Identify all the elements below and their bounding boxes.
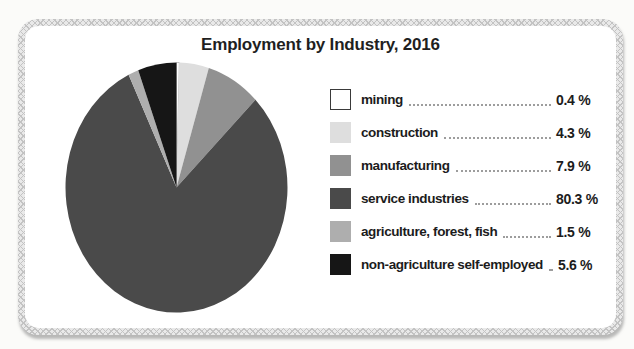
legend-swatch-non-agriculture-self-employed-icon — [330, 254, 351, 275]
legend-row-manufacturing: manufacturing 7.9 % — [330, 155, 616, 176]
chart-card: Employment by Industry, 2016 mining 0.4 … — [25, 26, 616, 328]
legend-row-service-industries: service industries 80.3 % — [330, 188, 616, 209]
legend-label: construction — [361, 125, 438, 140]
dotted-leader — [503, 236, 551, 238]
legend-label: agriculture, forest, fish — [361, 224, 497, 239]
dotted-leader — [444, 137, 551, 139]
legend-value: 5.6 % — [558, 257, 618, 273]
legend-swatch-manufacturing-icon — [330, 155, 351, 176]
legend-row-construction: construction 4.3 % — [330, 122, 616, 143]
chart-title: Employment by Industry, 2016 — [25, 35, 616, 55]
legend-swatch-construction-icon — [330, 122, 351, 143]
legend-label: mining — [361, 92, 403, 107]
legend-label: service industries — [361, 191, 469, 206]
dotted-leader — [456, 170, 551, 172]
legend-label: manufacturing — [361, 158, 450, 173]
pie-chart — [65, 62, 288, 313]
dotted-leader — [409, 104, 551, 106]
legend-value: 80.3 % — [556, 191, 616, 207]
legend-swatch-mining-icon — [330, 89, 351, 110]
legend-row-mining: mining 0.4 % — [330, 89, 616, 110]
chart-card-frame: Employment by Industry, 2016 mining 0.4 … — [18, 19, 623, 335]
legend-row-non-agriculture-self-employed: non-agriculture self-employed 5.6 % — [330, 254, 616, 275]
legend-value: 1.5 % — [556, 224, 616, 240]
legend-value: 4.3 % — [556, 125, 616, 141]
dotted-leader — [475, 203, 551, 205]
legend-label: non-agriculture self-employed — [361, 257, 543, 272]
legend-value: 0.4 % — [556, 92, 616, 108]
scanned-chart-page: Employment by Industry, 2016 mining 0.4 … — [0, 0, 634, 349]
legend-value: 7.9 % — [556, 158, 616, 174]
legend: mining 0.4 % construction 4.3 % manufact… — [330, 89, 616, 287]
dotted-leader — [549, 269, 553, 271]
legend-swatch-agriculture-forest-fish-icon — [330, 221, 351, 242]
legend-row-agriculture-forest-fish: agriculture, forest, fish 1.5 % — [330, 221, 616, 242]
legend-swatch-service-industries-icon — [330, 188, 351, 209]
